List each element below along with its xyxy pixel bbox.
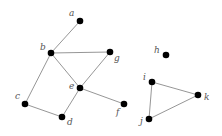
node-label-d: d — [67, 117, 73, 127]
node-i — [149, 79, 156, 86]
node-label-h: h — [154, 45, 160, 55]
node-g — [107, 49, 114, 56]
edge-i-j — [149, 82, 152, 119]
node-labels: abcdefghijk — [15, 8, 209, 127]
edge-j-k — [149, 95, 198, 119]
node-label-k: k — [204, 92, 209, 102]
node-a — [77, 18, 84, 25]
edge-a-b — [51, 21, 80, 53]
node-e — [77, 85, 84, 92]
node-label-a: a — [69, 8, 74, 18]
node-label-g: g — [114, 53, 120, 63]
edge-i-k — [152, 82, 198, 95]
edge-g-e — [80, 52, 110, 88]
edge-b-g — [51, 52, 110, 53]
node-label-i: i — [143, 72, 146, 82]
node-d — [59, 114, 66, 121]
node-label-f: f — [115, 107, 121, 117]
node-label-j: j — [138, 116, 143, 126]
node-j — [146, 116, 153, 123]
node-label-b: b — [40, 42, 46, 52]
node-f — [121, 101, 128, 108]
node-label-e: e — [69, 81, 74, 91]
edge-b-e — [51, 53, 80, 88]
edge-e-f — [80, 88, 124, 104]
node-k — [195, 92, 202, 99]
node-label-c: c — [15, 91, 20, 101]
edge-e-d — [62, 88, 80, 117]
edge-c-d — [25, 104, 62, 117]
node-b — [48, 50, 55, 57]
edge-b-c — [25, 53, 51, 104]
node-c — [22, 101, 29, 108]
node-h — [163, 52, 170, 59]
edges — [25, 21, 198, 119]
graph-diagram: abcdefghijk — [0, 0, 222, 136]
